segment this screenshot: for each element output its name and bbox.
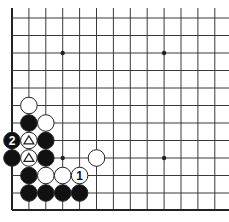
white-stone <box>88 150 105 167</box>
black-stone-circle <box>54 185 71 202</box>
move-number-label: 1 <box>76 169 83 183</box>
move-number-label: 2 <box>9 134 16 148</box>
black-stone <box>21 185 38 202</box>
black-stone: 2 <box>4 132 21 149</box>
black-stone <box>21 115 38 132</box>
black-stone-circle <box>21 185 38 202</box>
black-stone-circle <box>38 150 55 167</box>
white-stone <box>21 150 38 167</box>
black-stone-circle <box>38 185 55 202</box>
white-stone-circle <box>38 115 55 132</box>
white-stone <box>21 132 38 149</box>
black-stone-circle <box>71 185 88 202</box>
star-point <box>162 51 166 55</box>
black-stone <box>54 185 71 202</box>
black-stone-circle <box>21 115 38 132</box>
black-stone-circle <box>38 132 55 149</box>
black-stone <box>38 132 55 149</box>
stones: 21 <box>4 97 105 201</box>
white-stone <box>54 167 71 184</box>
black-stone <box>38 185 55 202</box>
black-stone <box>21 167 38 184</box>
white-stone-circle <box>38 167 55 184</box>
black-stone-circle <box>4 150 21 167</box>
white-stone-circle <box>88 150 105 167</box>
go-board: 21 <box>0 0 229 222</box>
white-stone <box>38 167 55 184</box>
black-stone <box>4 150 21 167</box>
black-stone <box>38 150 55 167</box>
white-stone-circle <box>54 167 71 184</box>
white-stone-circle <box>21 97 38 114</box>
white-stone-circle <box>21 132 38 149</box>
black-stone-circle <box>21 167 38 184</box>
star-point <box>61 51 65 55</box>
white-stone <box>38 115 55 132</box>
white-stone: 1 <box>71 167 88 184</box>
black-stone <box>71 185 88 202</box>
white-stone-circle <box>21 150 38 167</box>
white-stone <box>21 97 38 114</box>
star-point <box>162 156 166 160</box>
star-point <box>61 156 65 160</box>
